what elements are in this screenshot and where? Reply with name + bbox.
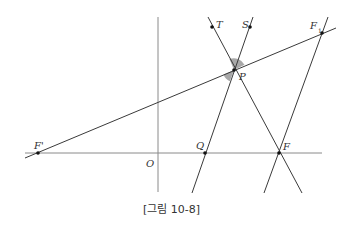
ellipse-tangent-reflection-diagram: F' O Q F P T S F 1 [그림 10-8] bbox=[0, 0, 353, 230]
label-f-prime: F' bbox=[33, 140, 44, 151]
label-f1-subscript: 1 bbox=[318, 27, 322, 34]
figure-caption: [그림 10-8] bbox=[143, 203, 200, 216]
point-f bbox=[277, 151, 281, 155]
label-t: T bbox=[216, 19, 224, 30]
label-p: P bbox=[238, 71, 246, 82]
label-o: O bbox=[146, 158, 154, 169]
label-f1: F bbox=[309, 20, 318, 31]
line-f1-f bbox=[264, 17, 328, 193]
point-p bbox=[232, 68, 236, 72]
label-f: F bbox=[282, 141, 291, 152]
point-f-prime bbox=[36, 151, 40, 155]
point-q bbox=[203, 151, 207, 155]
point-t bbox=[210, 25, 214, 29]
label-s: S bbox=[242, 19, 249, 30]
line-fprime-f1 bbox=[25, 28, 336, 158]
label-q: Q bbox=[196, 140, 204, 151]
